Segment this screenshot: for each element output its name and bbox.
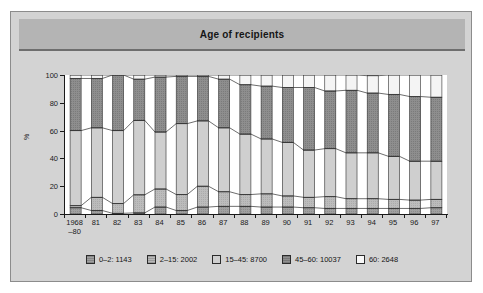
legend-item[interactable]: 15–45: 8700 — [212, 255, 267, 264]
x-tick — [319, 214, 320, 218]
bar-segment — [431, 161, 442, 199]
series-gap-fill — [208, 76, 218, 127]
bar-segment — [346, 90, 357, 153]
legend-label: 45–60: 10037 — [295, 255, 341, 264]
series-gap-fill — [272, 139, 282, 196]
legend-item[interactable]: 0–2: 1143 — [86, 255, 132, 264]
bar-segment — [346, 199, 357, 209]
x-tick — [382, 214, 383, 218]
bar-segment — [282, 196, 293, 207]
series-gap-fill — [293, 75, 303, 88]
x-tick — [340, 214, 341, 218]
legend-label: 15–45: 8700 — [225, 255, 267, 264]
bar-segment — [431, 199, 442, 207]
x-tick-label: 82 — [113, 219, 121, 228]
bar-segment — [325, 75, 336, 91]
bar-segment — [197, 76, 208, 120]
series-gap-fill — [272, 207, 282, 214]
y-tick-label: 0 — [54, 210, 58, 219]
bar-segment — [134, 75, 145, 79]
bar-segment — [176, 76, 187, 123]
bar-segment — [325, 149, 336, 197]
bar-segment — [367, 199, 378, 209]
series-gap-fill — [421, 75, 431, 97]
series-gap-fill — [399, 94, 409, 161]
legend-item[interactable]: 60: 2648 — [356, 255, 398, 264]
bar-segment — [410, 161, 421, 200]
series-gap-fill — [378, 75, 388, 94]
bar-segment — [197, 207, 208, 214]
y-tick — [60, 103, 64, 104]
x-tick-label: 1968–80 — [66, 219, 83, 236]
bar-segment — [325, 91, 336, 149]
bar-segment — [176, 195, 187, 211]
bar-segment — [367, 93, 378, 153]
bar-segment — [219, 206, 230, 214]
series-gap-fill — [230, 206, 240, 214]
y-tick-label: 80 — [50, 98, 58, 107]
x-tick-label: 81 — [92, 219, 100, 228]
bar-segment — [70, 75, 81, 78]
y-tick — [60, 131, 64, 132]
bar-segment — [304, 75, 315, 88]
legend-label: 0–2: 1143 — [99, 255, 132, 264]
x-tick-label: 86 — [198, 219, 206, 228]
page-title: Age of recipients — [200, 29, 285, 40]
series-gap-fill — [187, 76, 197, 123]
bar-segment — [367, 153, 378, 199]
bar-segment — [304, 150, 315, 197]
series-gap-fill — [81, 128, 91, 206]
x-tick — [446, 214, 447, 218]
bar-segment — [431, 75, 442, 97]
series-gap-fill — [421, 199, 431, 208]
series-gap-fill — [251, 194, 261, 207]
bar-segment — [282, 142, 293, 196]
bar-segment — [261, 207, 272, 214]
series-gap-fill — [81, 75, 91, 78]
x-tick-label: 96 — [410, 219, 418, 228]
x-tick-label: 95 — [389, 219, 397, 228]
bar-segment — [155, 77, 166, 132]
bar-segment — [113, 204, 124, 214]
x-tick-label: 90 — [283, 219, 291, 228]
bar-segment — [134, 195, 145, 213]
bar-segment — [346, 75, 357, 90]
bar-segment — [113, 75, 124, 131]
y-tick-label: 40 — [50, 154, 58, 163]
chart-legend: 0–2: 11432–15: 200215–45: 870045–60: 100… — [19, 250, 465, 268]
bar-segment — [134, 79, 145, 120]
bar-segment — [91, 128, 102, 198]
series-gap-fill — [124, 120, 134, 203]
series-gap-fill — [315, 88, 325, 151]
y-tick — [60, 75, 64, 76]
series-gap-fill — [336, 149, 346, 199]
series-gap-fill — [251, 85, 261, 139]
bar-segment — [282, 207, 293, 214]
legend-item[interactable]: 45–60: 10037 — [282, 255, 341, 264]
legend-item[interactable]: 2–15: 2002 — [147, 255, 198, 264]
bar-segment — [410, 200, 421, 208]
chart-figure: Age of recipients % 020406080100 — [10, 11, 472, 282]
bar-segment — [240, 195, 251, 207]
bar-segment — [410, 75, 421, 97]
bar-segment — [219, 79, 230, 128]
bar-segment — [304, 197, 315, 207]
bar-segment — [410, 97, 421, 162]
series-gap-fill — [166, 76, 176, 132]
bar-segment — [261, 139, 272, 194]
series-gap-fill — [399, 75, 409, 97]
series-gap-fill — [378, 199, 388, 209]
series-gap-fill — [357, 199, 367, 209]
stacked-bar-chart — [65, 75, 447, 214]
bar-segment — [431, 97, 442, 161]
series-gap-fill — [272, 86, 282, 142]
legend-swatch — [356, 255, 365, 264]
series-gap-fill — [102, 75, 112, 131]
x-tick — [255, 214, 256, 218]
x-tick — [191, 214, 192, 218]
x-tick-label: 89 — [261, 219, 269, 228]
bar-segment — [155, 207, 166, 214]
y-tick-label: 100 — [45, 71, 58, 80]
series-gap-fill — [357, 90, 367, 153]
y-tick — [60, 158, 64, 159]
